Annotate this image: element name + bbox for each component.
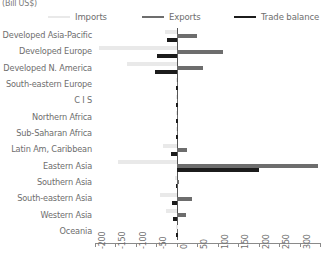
x-axis-tick	[95, 243, 96, 247]
axis-unit-title: (Bill US$)	[2, 0, 37, 8]
bar-trade-balance	[157, 54, 177, 58]
bar-trade-balance	[155, 70, 177, 74]
x-axis-tick	[320, 243, 321, 247]
category-label: Developed Europe	[0, 47, 92, 56]
bar-trade-balance	[173, 217, 177, 221]
category-label: Developed N. America	[0, 64, 92, 73]
category-label: Latin Am, Caribbean	[0, 145, 92, 154]
x-axis-tick-label: 200	[262, 234, 271, 249]
x-axis-tick	[279, 243, 280, 247]
x-axis-tick-label: -50	[159, 237, 168, 249]
x-axis-tick-label: 0	[180, 244, 189, 249]
bar-trade-balance	[177, 168, 259, 172]
x-axis-tick	[238, 243, 239, 247]
chart-legend: Imports Exports Trade balance	[48, 11, 320, 23]
category-axis-labels: Developed Asia-PacificDeveloped EuropeDe…	[0, 28, 92, 240]
bar-trade-balance	[171, 152, 177, 156]
x-axis-tick	[259, 243, 260, 247]
x-axis-tick	[136, 243, 137, 247]
legend-label-trade-balance: Trade balance	[261, 12, 319, 22]
x-axis-tick	[115, 243, 116, 247]
bar-exports	[177, 197, 193, 201]
bar-exports	[177, 213, 186, 217]
x-axis-tick-label: -200	[98, 232, 107, 249]
category-label: Western Asia	[0, 211, 92, 220]
category-label: C I S	[0, 96, 92, 105]
bar-exports	[177, 50, 223, 54]
legend-label-exports: Exports	[169, 12, 201, 22]
bar-imports	[165, 30, 177, 34]
x-axis-tick-label: 300	[303, 234, 312, 249]
bar-imports	[163, 144, 177, 148]
x-axis-tick-label: -150	[118, 232, 127, 249]
bar-trade-balance	[176, 119, 177, 123]
category-label: South-eastern Europe	[0, 80, 92, 89]
bar-trade-balance	[176, 184, 177, 188]
category-label: Sub-Saharan Africa	[0, 129, 92, 138]
bar-imports	[99, 46, 177, 50]
bar-imports	[166, 209, 177, 213]
legend-swatch-exports	[142, 16, 164, 18]
x-axis-tick	[156, 243, 157, 247]
category-label: South-eastern Asia	[0, 194, 92, 203]
bar-imports	[118, 160, 177, 164]
bar-trade-balance	[176, 86, 177, 90]
legend-item-trade-balance: Trade balance	[234, 11, 319, 23]
x-axis-tick	[300, 243, 301, 247]
legend-item-exports: Exports	[142, 11, 201, 23]
bar-exports	[177, 148, 187, 152]
legend-item-imports: Imports	[48, 11, 107, 23]
plot-area	[95, 28, 320, 240]
bar-imports	[160, 193, 176, 197]
legend-swatch-trade-balance	[234, 16, 256, 18]
category-label: Southern Asia	[0, 178, 92, 187]
legend-swatch-imports	[48, 16, 70, 18]
bar-trade-balance	[172, 201, 177, 205]
bar-imports	[127, 62, 177, 66]
trade-bar-chart: (Bill US$) Imports Exports Trade balance…	[0, 0, 322, 279]
x-axis-tick	[197, 243, 198, 247]
category-label: Oceania	[0, 227, 92, 236]
x-axis-tick-label: 50	[200, 239, 209, 249]
bar-exports	[177, 34, 197, 38]
x-axis-tick	[177, 243, 178, 247]
category-label: Northern Africa	[0, 113, 92, 122]
x-axis-tick	[218, 243, 219, 247]
category-label: Developed Asia-Pacific	[0, 31, 92, 40]
bar-trade-balance	[167, 38, 177, 42]
category-label: Eastern Asia	[0, 162, 92, 171]
bar-exports	[177, 66, 203, 70]
bar-trade-balance	[176, 233, 177, 237]
x-axis-tick-label: -100	[139, 232, 148, 249]
bar-trade-balance	[176, 135, 177, 139]
bar-trade-balance	[176, 103, 177, 107]
x-axis-tick-label: 100	[221, 234, 230, 249]
x-axis-tick-label: 250	[282, 234, 291, 249]
x-axis-tick-label: 150	[241, 234, 250, 249]
legend-label-imports: Imports	[75, 12, 107, 22]
